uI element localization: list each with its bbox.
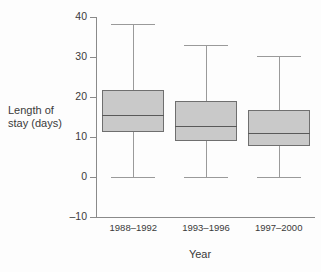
x-axis-tick-label: 1988–1992 xyxy=(97,222,169,233)
y-axis-tick xyxy=(90,17,96,18)
box-rect xyxy=(248,110,310,146)
x-axis-tick-label: 1993–1996 xyxy=(170,222,242,233)
boxplot-box-group xyxy=(97,17,315,217)
lower-whisker-cap xyxy=(257,177,301,178)
y-axis-tick xyxy=(90,177,96,178)
boxplot-figure: Length of stay (days) 403020100–10 1988–… xyxy=(0,0,321,272)
lower-whisker-line xyxy=(279,146,280,177)
x-axis-tick-label: 1997–2000 xyxy=(243,222,315,233)
upper-whisker-cap xyxy=(257,56,301,57)
y-axis-tick xyxy=(90,137,96,138)
x-axis-label: Year xyxy=(85,248,315,260)
x-axis-spine xyxy=(96,217,315,218)
y-axis-tick xyxy=(90,217,96,218)
y-axis-tick-label: –10 xyxy=(47,210,87,222)
y-axis-tick-label: 30 xyxy=(47,50,87,62)
y-axis-label-line-2: stay (days) xyxy=(8,117,82,130)
y-axis-tick xyxy=(90,97,96,98)
y-axis-tick-label: 20 xyxy=(47,90,87,102)
y-axis-tick-label: 10 xyxy=(47,130,87,142)
plot-area xyxy=(97,17,315,217)
upper-whisker-line xyxy=(279,56,280,110)
y-axis-tick xyxy=(90,57,96,58)
median-line xyxy=(248,133,310,134)
y-axis-tick-label: 0 xyxy=(47,170,87,182)
y-axis-tick-label: 40 xyxy=(47,10,87,22)
y-axis-label-line-1: Length of xyxy=(8,104,82,117)
y-axis-label: Length of stay (days) xyxy=(8,104,82,130)
